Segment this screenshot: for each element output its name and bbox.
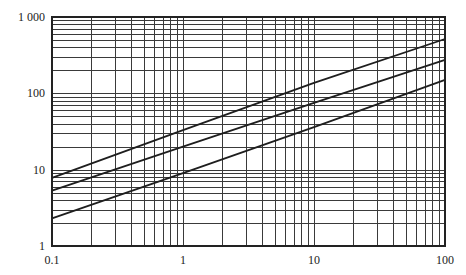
data-series bbox=[52, 39, 445, 218]
plot-frame bbox=[52, 17, 445, 246]
x-tick-label: 1 bbox=[180, 253, 186, 267]
log-log-chart: 0.1110100 1101001 000 bbox=[0, 0, 466, 275]
grid-lines bbox=[52, 17, 445, 246]
series-line-1 bbox=[52, 39, 445, 178]
y-tick-label: 1 bbox=[39, 239, 45, 253]
series-line-3 bbox=[52, 80, 445, 219]
x-tick-label: 100 bbox=[436, 253, 454, 267]
series-line-2 bbox=[52, 60, 445, 191]
x-tick-label: 10 bbox=[308, 253, 320, 267]
x-axis-tick-labels: 0.1110100 bbox=[45, 253, 455, 267]
y-axis-tick-labels: 1101001 000 bbox=[18, 10, 45, 253]
y-tick-label: 1 000 bbox=[18, 10, 45, 24]
x-tick-label: 0.1 bbox=[45, 253, 60, 267]
y-tick-label: 100 bbox=[27, 86, 45, 100]
y-tick-label: 10 bbox=[33, 163, 45, 177]
